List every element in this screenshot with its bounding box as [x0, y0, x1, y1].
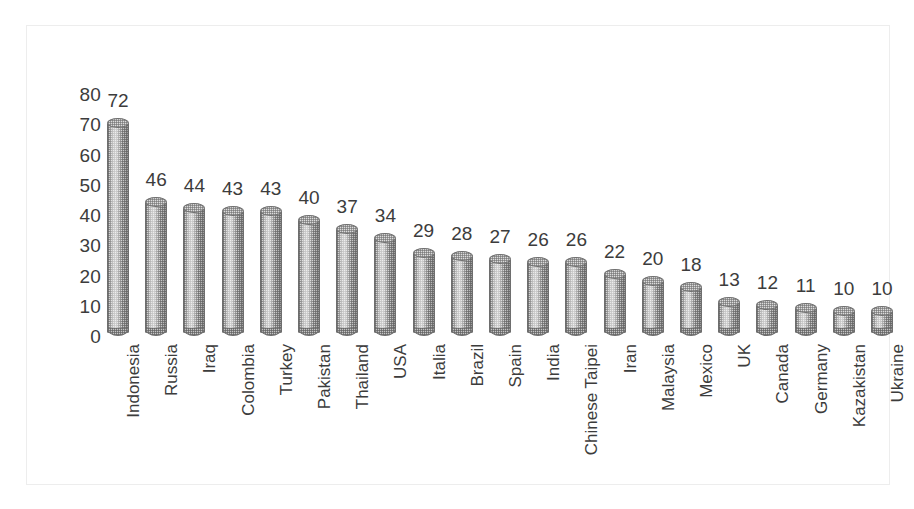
bar-value-label: 27 [480, 227, 520, 246]
bar-value-label: 34 [365, 206, 405, 225]
bar[interactable] [298, 215, 320, 336]
x-axis-category-label: Mexico [698, 344, 715, 398]
x-axis-category-label: Thailand [354, 344, 371, 409]
bar-value-label: 43 [213, 179, 253, 198]
bar-bottom-cap [527, 328, 549, 336]
y-axis-tick-label: 60 [55, 146, 101, 165]
bar[interactable] [795, 303, 817, 336]
bar[interactable] [489, 254, 511, 336]
bar[interactable] [680, 282, 702, 336]
bar-body [298, 220, 320, 333]
y-axis-tick-label: 0 [55, 327, 101, 346]
bar-bottom-cap [756, 328, 778, 336]
bar-value-label: 26 [518, 230, 558, 249]
bar-bottom-cap [565, 328, 587, 336]
bar-top-cap [795, 303, 817, 313]
bar[interactable] [527, 257, 549, 336]
bar-body [489, 259, 511, 333]
bar-body [527, 262, 549, 333]
bar[interactable] [222, 206, 244, 336]
bar-body [107, 123, 129, 333]
bar-value-label: 11 [786, 276, 826, 295]
x-axis-category-label: India [545, 344, 562, 381]
bar-value-label: 43 [251, 179, 291, 198]
bar-value-label: 20 [633, 249, 673, 268]
x-axis-category-label: UK [736, 344, 753, 368]
bar-value-label: 12 [747, 273, 787, 292]
y-axis-tick-label: 40 [55, 206, 101, 225]
y-axis-tick-label: 80 [55, 85, 101, 104]
bar[interactable] [642, 276, 664, 337]
bar[interactable] [833, 306, 855, 336]
bar-bottom-cap [718, 328, 740, 336]
bar-bottom-cap [298, 328, 320, 336]
bar-body [183, 208, 205, 333]
bar[interactable] [756, 300, 778, 336]
bar-value-label: 46 [136, 170, 176, 189]
x-axis-category-label: Malaysia [660, 344, 677, 411]
bar-body [604, 274, 626, 333]
bar-bottom-cap [795, 328, 817, 336]
x-axis-category-label: Germany [813, 344, 830, 414]
bar-top-cap [298, 215, 320, 225]
x-axis-category-label: Russia [163, 344, 180, 396]
bar[interactable] [107, 118, 129, 336]
bar[interactable] [336, 224, 358, 336]
x-axis-category-label: Canada [774, 344, 791, 404]
bar-body [565, 262, 587, 333]
bar[interactable] [260, 206, 282, 336]
bar[interactable] [718, 297, 740, 336]
bar-body [145, 202, 167, 333]
x-axis-category-label: Chinese Taipei [583, 344, 600, 455]
bar-bottom-cap [871, 328, 893, 336]
bar-bottom-cap [680, 328, 702, 336]
bar-bottom-cap [833, 328, 855, 336]
bar-top-cap [871, 306, 893, 316]
bar-top-cap [145, 197, 167, 207]
bar-bottom-cap [107, 328, 129, 336]
x-axis-category-label: Iran [622, 344, 639, 373]
bar-bottom-cap [336, 328, 358, 336]
y-axis-tick-label: 10 [55, 297, 101, 316]
bar-top-cap [260, 206, 282, 216]
y-axis-tick-label: 30 [55, 236, 101, 255]
bar[interactable] [413, 248, 435, 336]
bar-body [413, 253, 435, 333]
bar-bottom-cap [183, 328, 205, 336]
bar-value-label: 26 [556, 230, 596, 249]
x-axis-category-label: Kazakistan [851, 344, 868, 427]
bar[interactable] [374, 233, 396, 336]
bar[interactable] [183, 203, 205, 336]
bar-bottom-cap [604, 328, 626, 336]
bar-value-label: 22 [595, 242, 635, 261]
bar[interactable] [451, 251, 473, 336]
y-axis-tick-label: 50 [55, 176, 101, 195]
bar[interactable] [604, 269, 626, 336]
x-axis-category-label: Spain [507, 344, 524, 387]
bar-top-cap [833, 306, 855, 316]
chart-frame: 80706050403020100 7246444343403734292827… [26, 25, 890, 485]
bar-top-cap [642, 276, 664, 286]
bar-value-label: 40 [289, 188, 329, 207]
bar-body [642, 281, 664, 334]
y-axis-tick-label: 70 [55, 115, 101, 134]
bar-bottom-cap [260, 328, 282, 336]
bar-value-label: 29 [404, 221, 444, 240]
bar-body [336, 229, 358, 333]
bar[interactable] [871, 306, 893, 336]
plot-area: 7246444343403734292827262622201813121110… [107, 94, 907, 336]
y-axis-tick-label: 20 [55, 267, 101, 286]
x-axis-category-label: Pakistan [316, 344, 333, 409]
bar-top-cap [680, 282, 702, 292]
x-axis-category-label: Ukraine [889, 344, 906, 403]
x-axis-category-label: Turkey [278, 344, 295, 395]
bar-body [451, 256, 473, 333]
bar[interactable] [565, 257, 587, 336]
bar-top-cap [756, 300, 778, 310]
bar-body [222, 211, 244, 333]
bar-body [374, 238, 396, 333]
bar-value-label: 44 [174, 176, 214, 195]
bar-body [680, 287, 702, 333]
bar[interactable] [145, 197, 167, 336]
x-axis-category-label: USA [392, 344, 409, 379]
